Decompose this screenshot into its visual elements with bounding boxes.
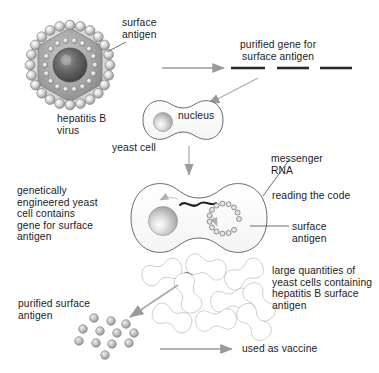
label-nucleus: nucleus: [178, 110, 214, 122]
label-reading-the-code: reading the code: [272, 190, 350, 202]
label-purified-gene: purified gene for surface antigen: [240, 39, 316, 62]
label-used-as-vaccine: used as vaccine: [242, 343, 317, 355]
label-large-quantities: large quantities of yeast cells containi…: [272, 265, 372, 311]
engineered-yeast-cell-graphic: [131, 160, 289, 252]
arrow-gene-to-yeast: [208, 78, 258, 104]
label-hepatitis-b-virus: hepatitis B virus: [57, 113, 106, 136]
engineered-nucleus-sphere: [149, 207, 178, 236]
diagram-canvas: surface antigen hepatitis B virus purifi…: [0, 0, 379, 373]
label-messenger-rna: messenger RNA: [271, 153, 323, 176]
hepatitis-b-virus-graphic: [25, 20, 126, 110]
leader-line-surface-antigen-virus: [107, 42, 126, 52]
label-surface-antigen-virus: surface antigen: [122, 17, 157, 40]
label-engineered-cell: genetically engineered yeast cell contai…: [17, 185, 98, 243]
label-surface-antigen-cell: surface antigen: [292, 221, 327, 244]
label-yeast-cell: yeast cell: [112, 142, 156, 154]
label-purified-surface-antigen: purified surface antigen: [18, 298, 90, 321]
nucleus-sphere: [154, 113, 173, 132]
yeast-cell-mass-graphic: [139, 252, 278, 344]
